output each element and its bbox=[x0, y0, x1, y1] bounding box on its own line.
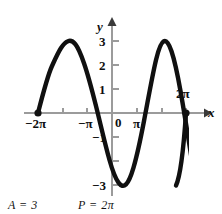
y-axis-arrow-icon bbox=[108, 17, 117, 26]
x-tick-label-2pi: 2π bbox=[176, 87, 190, 100]
amplitude-caption: A = 3 bbox=[8, 198, 38, 213]
y-tick-label-2: 2 bbox=[99, 59, 106, 72]
x-tick-label-neg-pi: −π bbox=[78, 117, 93, 130]
origin-label: 0 bbox=[115, 116, 122, 129]
y-tick-label-1: 1 bbox=[99, 83, 106, 96]
sine-curve-end-segment bbox=[176, 113, 186, 186]
sine-graph-svg bbox=[0, 0, 222, 214]
curve-right-mask bbox=[189, 0, 222, 214]
y-tick-label-neg-3: −3 bbox=[92, 179, 106, 192]
x-tick-label-neg-2pi: −2π bbox=[25, 117, 46, 130]
figure-panel: y x 0 −2π −π π 2π 3 2 1 −1 −3 A = 3 P = … bbox=[0, 0, 222, 214]
y-tick-label-neg-1: −1 bbox=[92, 131, 106, 144]
y-tick-label-3: 3 bbox=[99, 35, 106, 48]
right-endpoint-dot bbox=[182, 109, 189, 116]
y-axis-label: y bbox=[97, 20, 103, 33]
x-axis-label: x bbox=[208, 106, 215, 119]
period-caption: P = 2π bbox=[78, 198, 114, 213]
x-tick-label-pi: π bbox=[133, 117, 140, 130]
